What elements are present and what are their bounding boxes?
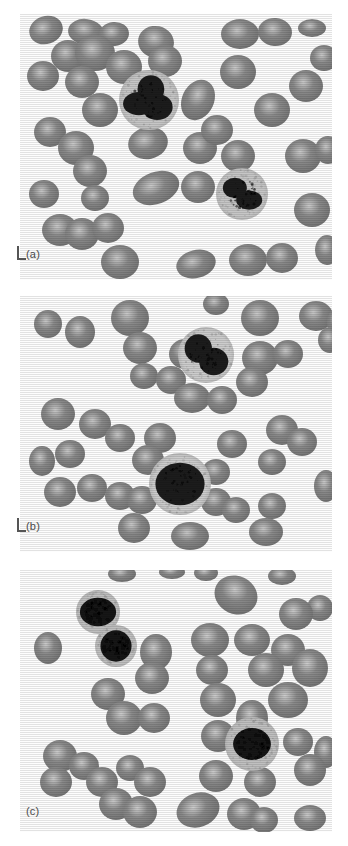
micrograph-panel-b <box>20 296 332 552</box>
panel-c-canvas <box>20 570 332 832</box>
panel-a-canvas <box>20 14 332 280</box>
panel-label-b: (b) <box>26 521 40 532</box>
figure-root: (a) (b) (c) <box>0 0 348 846</box>
micrograph-panel-c <box>20 570 332 832</box>
micrograph-panel-a <box>20 14 332 280</box>
panel-label-a: (a) <box>26 249 40 260</box>
scale-marker-b <box>17 518 26 532</box>
scale-marker-a <box>17 246 26 260</box>
panel-b-canvas <box>20 296 332 552</box>
panel-label-c: (c) <box>26 806 39 817</box>
